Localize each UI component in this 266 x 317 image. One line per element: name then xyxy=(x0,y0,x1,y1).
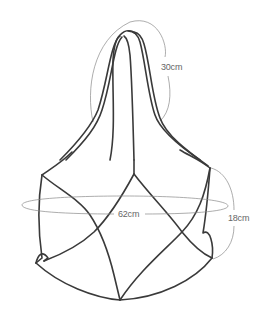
handle-measure-arc xyxy=(90,21,165,122)
handle-strands xyxy=(60,31,208,166)
body-height-label: 18cm xyxy=(228,213,249,223)
height-measure-arc xyxy=(211,168,234,210)
bag-body xyxy=(36,150,213,300)
handle-measure-arc-lower xyxy=(160,76,170,121)
net-bag-illustration xyxy=(0,0,266,317)
height-measure-arc-lower xyxy=(213,226,234,259)
handle-length-label: 30cm xyxy=(161,62,182,72)
circumference-label: 62cm xyxy=(117,209,140,219)
